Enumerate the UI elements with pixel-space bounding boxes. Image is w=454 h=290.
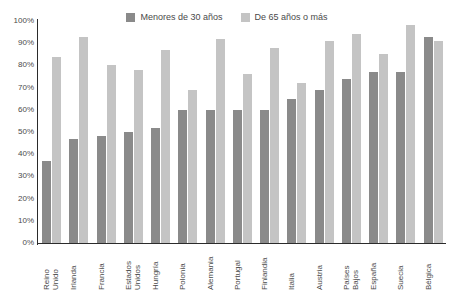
bar-65-o-mas: [79, 37, 88, 243]
x-axis-category-label: Polonia: [178, 246, 187, 290]
x-axis-category-label: Suecia: [396, 246, 405, 290]
x-axis-category-label: Reino Unido: [42, 246, 60, 290]
bar-group: [368, 21, 395, 243]
bar-menores-30: [124, 132, 133, 243]
x-axis-category-label: Hungría: [151, 246, 160, 290]
y-axis-tick-label: 70%: [0, 84, 34, 92]
bar-chart: Menores de 30 años De 65 años o más 100%…: [0, 0, 454, 290]
plot-area: [37, 21, 446, 243]
y-axis-tick-label: 0%: [0, 239, 34, 247]
bar-group: [68, 21, 95, 243]
bar-65-o-mas: [352, 34, 361, 243]
bar-group: [123, 21, 150, 243]
bar-menores-30: [233, 110, 242, 243]
y-axis-tick-label: 80%: [0, 61, 34, 69]
bar-menores-30: [260, 110, 269, 243]
bar-menores-30: [206, 110, 215, 243]
bar-menores-30: [315, 90, 324, 243]
x-axis-category-label: Alemania: [206, 246, 215, 290]
bar-menores-30: [342, 79, 351, 243]
x-axis-category-label: Países Bajos: [342, 246, 360, 290]
bar-65-o-mas: [134, 70, 143, 243]
x-axis-category-label: España: [369, 246, 378, 290]
bar-group: [96, 21, 123, 243]
y-axis-tick-label: 50%: [0, 128, 34, 136]
x-axis-category-label: Finlandia: [260, 246, 269, 290]
bar-group: [41, 21, 68, 243]
bar-group: [232, 21, 259, 243]
x-axis-line: [37, 243, 446, 244]
bar-65-o-mas: [52, 57, 61, 243]
bar-65-o-mas: [434, 41, 443, 243]
x-axis-category-label: Austria: [315, 246, 324, 290]
bar-group: [286, 21, 313, 243]
x-axis-category-label: Portugal: [233, 246, 242, 290]
y-axis-tick-label: 90%: [0, 39, 34, 47]
x-axis-category-label: Bélgica: [424, 246, 433, 290]
bar-group: [259, 21, 286, 243]
x-axis-category-label: Estados Unidos: [124, 246, 142, 290]
bar-menores-30: [69, 139, 78, 243]
bar-menores-30: [396, 72, 405, 243]
y-axis-tick-label: 30%: [0, 172, 34, 180]
bars-layer: [37, 21, 446, 243]
bar-65-o-mas: [379, 54, 388, 243]
y-axis-tick-label: 100%: [0, 17, 34, 25]
bar-65-o-mas: [161, 50, 170, 243]
bar-menores-30: [369, 72, 378, 243]
bar-menores-30: [97, 136, 106, 243]
bar-menores-30: [178, 110, 187, 243]
bar-65-o-mas: [297, 83, 306, 243]
x-axis-category-label: Italia: [287, 246, 296, 290]
bar-group: [423, 21, 450, 243]
bar-65-o-mas: [270, 48, 279, 243]
y-axis-tick-label: 60%: [0, 106, 34, 114]
bar-65-o-mas: [216, 39, 225, 243]
y-axis-ticks: 100%90%80%70%60%50%40%30%20%10%0%: [0, 0, 34, 290]
bar-group: [150, 21, 177, 243]
y-axis-tick-label: 20%: [0, 195, 34, 203]
x-axis-labels: Reino UnidoIrlandaFranciaEstados UnidosH…: [37, 246, 446, 290]
bar-menores-30: [287, 99, 296, 243]
bar-65-o-mas: [325, 41, 334, 243]
bar-65-o-mas: [107, 65, 116, 243]
y-axis-tick-label: 40%: [0, 150, 34, 158]
bar-group: [341, 21, 368, 243]
bar-65-o-mas: [406, 25, 415, 243]
bar-65-o-mas: [243, 74, 252, 243]
bar-group: [395, 21, 422, 243]
bar-group: [177, 21, 204, 243]
bar-menores-30: [151, 128, 160, 243]
y-axis-tick-label: 10%: [0, 217, 34, 225]
bar-65-o-mas: [188, 90, 197, 243]
bar-group: [205, 21, 232, 243]
bar-menores-30: [42, 161, 51, 243]
bar-group: [314, 21, 341, 243]
x-axis-category-label: Francia: [97, 246, 106, 290]
x-axis-category-label: Irlanda: [69, 246, 78, 290]
bar-menores-30: [424, 37, 433, 243]
